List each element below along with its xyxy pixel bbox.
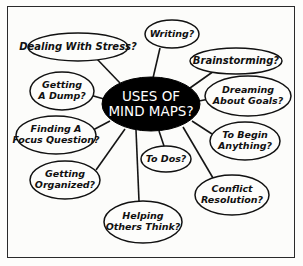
- branch-helping-others-think-label: Helping: [122, 210, 163, 221]
- branch-conflict-resolution[interactable]: ConflictResolution?: [195, 175, 269, 215]
- branch-dealing-with-stress-label: Dealing With Stress?: [19, 41, 137, 52]
- center-node-label: MIND MAPS?: [108, 103, 193, 119]
- branch-writing-label: Writing?: [150, 28, 195, 39]
- branch-helping-others-think[interactable]: HelpingOthers Think?: [104, 201, 182, 243]
- branch-to-begin-anything-label: To Begin: [222, 129, 268, 140]
- branch-helping-others-think-label: Others Think?: [106, 221, 181, 232]
- branch-dreaming-about-goals[interactable]: DreamingAbout Goals?: [205, 76, 291, 116]
- branch-getting-a-dump[interactable]: GettingA Dump?: [30, 72, 94, 110]
- branch-to-dos[interactable]: To Dos?: [141, 146, 191, 172]
- connector-line: [153, 48, 160, 78]
- connector-line: [96, 129, 125, 170]
- branch-finding-a-focus-question[interactable]: Finding AFocus Question?: [12, 116, 100, 154]
- branch-dreaming-about-goals-label: About Goals?: [212, 95, 284, 106]
- branch-to-begin-anything-label: Anything?: [217, 140, 272, 151]
- connector-line: [136, 130, 139, 201]
- branch-getting-organized[interactable]: GettingOrganized?: [30, 161, 100, 199]
- branch-conflict-resolution-label: Conflict: [211, 183, 253, 194]
- branch-dreaming-about-goals-label: Dreaming: [222, 84, 274, 95]
- diagram-canvas: Writing?Dealing With Stress?Brainstormin…: [0, 0, 303, 266]
- connector-line: [159, 131, 164, 146]
- branch-dealing-with-stress[interactable]: Dealing With Stress?: [19, 33, 137, 61]
- branch-conflict-resolution-label: Resolution?: [201, 194, 264, 205]
- branch-writing[interactable]: Writing?: [145, 20, 199, 48]
- connector-line: [93, 121, 110, 130]
- connector-line: [192, 121, 212, 134]
- branch-getting-organized-label: Organized?: [35, 179, 96, 190]
- branch-nodes: Writing?Dealing With Stress?Brainstormin…: [12, 20, 291, 243]
- mind-map-svg: Writing?Dealing With Stress?Brainstormin…: [0, 0, 303, 266]
- center-node[interactable]: USES OFMIND MAPS?: [102, 77, 200, 131]
- branch-to-begin-anything[interactable]: To BeginAnything?: [210, 122, 280, 160]
- branch-finding-a-focus-question-label: Finding A: [31, 123, 82, 134]
- branch-to-dos-label: To Dos?: [146, 153, 187, 164]
- branch-getting-a-dump-label: Getting: [42, 79, 82, 90]
- branch-getting-organized-label: Getting: [45, 168, 85, 179]
- branch-finding-a-focus-question-label: Focus Question?: [12, 134, 100, 145]
- center-node-group: USES OFMIND MAPS?: [102, 77, 200, 131]
- branch-brainstorming-label: Brainstorming?: [193, 55, 280, 66]
- branch-brainstorming[interactable]: Brainstorming?: [190, 48, 282, 74]
- center-node-label: USES OF: [122, 88, 180, 104]
- connector-line: [96, 58, 120, 83]
- branch-getting-a-dump-label: A Dump?: [37, 90, 86, 101]
